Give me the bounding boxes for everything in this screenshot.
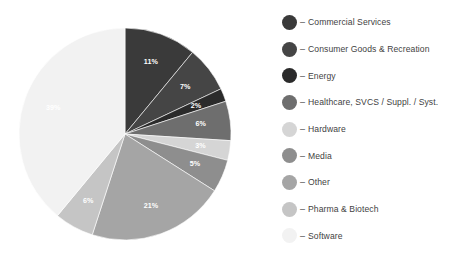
legend-swatch-icon bbox=[282, 122, 297, 137]
legend-separator-dash: – bbox=[297, 124, 308, 134]
pie-slice-value-label: 21% bbox=[144, 201, 159, 210]
chart-legend: –Commercial Services–Consumer Goods & Re… bbox=[282, 9, 468, 253]
legend-separator-dash: – bbox=[297, 204, 308, 214]
legend-item[interactable]: –Software bbox=[282, 223, 468, 250]
legend-item-label: Consumer Goods & Recreation bbox=[308, 44, 430, 54]
legend-item-label: Pharma & Biotech bbox=[308, 204, 379, 214]
pie-slice-value-label: 6% bbox=[83, 196, 94, 205]
legend-item[interactable]: –Media bbox=[282, 142, 468, 169]
legend-swatch-icon bbox=[282, 148, 297, 163]
legend-separator-dash: – bbox=[297, 177, 308, 187]
legend-item[interactable]: –Other bbox=[282, 169, 468, 196]
legend-separator-dash: – bbox=[297, 151, 308, 161]
pie-slice-group bbox=[19, 28, 231, 240]
legend-item-label: Energy bbox=[308, 71, 336, 81]
pie-chart-figure: 11%7%2%6%3%5%21%6%39% –Commercial Servic… bbox=[0, 0, 468, 258]
pie-slice-value-label: 6% bbox=[196, 119, 207, 128]
legend-swatch-icon bbox=[282, 175, 297, 190]
legend-separator-dash: – bbox=[297, 17, 308, 27]
legend-swatch-icon bbox=[282, 95, 297, 110]
legend-item[interactable]: –Commercial Services bbox=[282, 9, 468, 36]
legend-swatch-icon bbox=[282, 68, 297, 83]
pie-slice-value-label: 7% bbox=[180, 82, 191, 91]
pie-slice-value-label: 2% bbox=[191, 101, 202, 110]
pie-slice-value-label: 5% bbox=[190, 159, 201, 168]
legend-item[interactable]: –Healthcare, SVCS / Suppl. / Syst. bbox=[282, 89, 468, 116]
legend-item[interactable]: –Consumer Goods & Recreation bbox=[282, 36, 468, 63]
legend-swatch-icon bbox=[282, 202, 297, 217]
pie-chart-svg: 11%7%2%6%3%5%21%6%39% bbox=[0, 0, 270, 258]
legend-item-label: Healthcare, SVCS / Suppl. / Syst. bbox=[308, 97, 438, 107]
legend-separator-dash: – bbox=[297, 44, 308, 54]
legend-separator-dash: – bbox=[297, 231, 308, 241]
legend-item[interactable]: –Pharma & Biotech bbox=[282, 196, 468, 223]
legend-item-label: Other bbox=[308, 177, 330, 187]
legend-item-label: Software bbox=[308, 231, 343, 241]
legend-item[interactable]: –Hardware bbox=[282, 116, 468, 143]
legend-item[interactable]: –Energy bbox=[282, 62, 468, 89]
pie-slice-value-label: 39% bbox=[46, 103, 61, 112]
pie-slice-value-label: 3% bbox=[195, 141, 206, 150]
legend-swatch-icon bbox=[282, 42, 297, 57]
legend-item-label: Hardware bbox=[308, 124, 346, 134]
legend-item-label: Commercial Services bbox=[308, 17, 391, 27]
legend-separator-dash: – bbox=[297, 71, 308, 81]
pie-slice-value-label: 11% bbox=[144, 57, 159, 66]
legend-item-label: Media bbox=[308, 151, 332, 161]
legend-separator-dash: – bbox=[297, 97, 308, 107]
pie-chart-plot-area: 11%7%2%6%3%5%21%6%39% bbox=[0, 0, 270, 258]
legend-swatch-icon bbox=[282, 15, 297, 30]
legend-swatch-icon bbox=[282, 228, 297, 243]
